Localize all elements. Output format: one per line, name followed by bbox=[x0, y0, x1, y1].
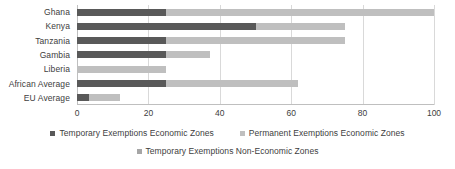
y-axis-label: Liberia bbox=[44, 64, 74, 74]
bar-row bbox=[77, 79, 434, 89]
legend-swatch-icon bbox=[240, 131, 245, 136]
bar-segment bbox=[166, 9, 434, 16]
y-axis-label: Tanzania bbox=[35, 36, 74, 46]
gridline bbox=[434, 5, 435, 105]
bar-row bbox=[77, 64, 434, 74]
legend-swatch-icon bbox=[50, 131, 55, 136]
legend-item[interactable]: Temporary Exemptions Economic Zones bbox=[50, 128, 213, 138]
bar-segment bbox=[166, 37, 345, 44]
x-axis-tick-labels: 020406080100 bbox=[77, 107, 434, 121]
bar-segment bbox=[166, 80, 298, 87]
y-axis-label: EU Average bbox=[24, 93, 74, 103]
bar-segment bbox=[77, 94, 89, 101]
legend-label: Permanent Exemptions Economic Zones bbox=[249, 128, 405, 138]
bar-segment bbox=[166, 51, 210, 58]
legend-item[interactable]: Temporary Exemptions Non-Economic Zones bbox=[137, 146, 319, 156]
bar-row bbox=[77, 21, 434, 31]
bar-row bbox=[77, 36, 434, 46]
legend-row-secondary: Temporary Exemptions Non-Economic Zones bbox=[0, 142, 455, 160]
bar-row bbox=[77, 50, 434, 60]
legend-item[interactable]: Permanent Exemptions Economic Zones bbox=[240, 128, 405, 138]
bar-row bbox=[77, 93, 434, 103]
legend-label: Temporary Exemptions Non-Economic Zones bbox=[146, 146, 319, 156]
x-axis-tick-label: 40 bbox=[215, 107, 224, 119]
legend-swatch-icon bbox=[137, 149, 142, 154]
y-axis-category-labels: GhanaKenyaTanzaniaGambiaLiberiaAfrican A… bbox=[0, 5, 74, 105]
x-axis-tick-label: 20 bbox=[144, 107, 153, 119]
bar-segment bbox=[77, 37, 166, 44]
plot-area bbox=[77, 5, 434, 105]
bar-row bbox=[77, 7, 434, 17]
chart-plot-wrapper: GhanaKenyaTanzaniaGambiaLiberiaAfrican A… bbox=[0, 0, 455, 112]
bar-segment bbox=[77, 23, 256, 30]
bar-series-container bbox=[77, 5, 434, 105]
bar-chart: GhanaKenyaTanzaniaGambiaLiberiaAfrican A… bbox=[0, 0, 455, 169]
chart-legend: Temporary Exemptions Economic ZonesPerma… bbox=[0, 124, 455, 160]
x-axis-tick-label: 100 bbox=[427, 107, 441, 119]
legend-label: Temporary Exemptions Economic Zones bbox=[59, 128, 213, 138]
legend-row-primary: Temporary Exemptions Economic ZonesPerma… bbox=[0, 124, 455, 142]
x-axis-tick-label: 80 bbox=[358, 107, 367, 119]
y-axis-label: Kenya bbox=[45, 21, 74, 31]
bar-segment bbox=[89, 94, 119, 101]
bar-segment bbox=[256, 23, 345, 30]
y-axis-label: Ghana bbox=[44, 7, 74, 17]
bar-segment bbox=[77, 51, 166, 58]
x-axis-tick-label: 0 bbox=[75, 107, 80, 119]
x-axis-tick-label: 60 bbox=[286, 107, 295, 119]
bar-segment bbox=[77, 9, 166, 16]
y-axis-label: African Average bbox=[9, 79, 74, 89]
bar-segment bbox=[77, 80, 166, 87]
bar-segment bbox=[77, 66, 166, 73]
y-axis-label: Gambia bbox=[40, 50, 74, 60]
